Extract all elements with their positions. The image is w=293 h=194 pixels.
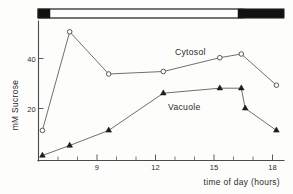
- axes: [38, 21, 284, 161]
- x-tick-label-9: 9: [95, 163, 99, 172]
- cytosol-point: [106, 72, 111, 77]
- photoperiod-bar: [38, 9, 284, 18]
- y-tick-label-40: 40: [27, 55, 36, 64]
- vacuole-point: [242, 105, 248, 110]
- vacuole-point: [161, 90, 167, 95]
- vacuole-point: [217, 85, 223, 90]
- x-tick-label-18: 18: [268, 163, 277, 172]
- vacuole-point: [106, 127, 112, 132]
- x-tick-label-15: 15: [210, 163, 219, 172]
- photoperiod-dark-segment-end: [238, 9, 284, 18]
- x-axis-ticks: [97, 155, 273, 161]
- cytosol-point: [274, 83, 279, 88]
- vacuole-point: [274, 127, 280, 132]
- y-tick-label-20: 20: [27, 105, 36, 114]
- sucrose-line-chart: 40 20 9 12 15 18 mM Suc: [0, 0, 293, 194]
- series-label-vacuole: Vacuole: [168, 102, 201, 112]
- x-axis-tick-labels: 9 12 15 18: [95, 163, 277, 172]
- vacuole-line: [42, 88, 276, 155]
- y-axis-ticks: [39, 59, 44, 109]
- cytosol-point: [218, 55, 223, 60]
- cytosol-point: [40, 128, 45, 133]
- series-cytosol: [40, 30, 279, 133]
- figure-canvas: 40 20 9 12 15 18 mM Suc: [0, 0, 293, 194]
- y-axis-title: mM Sucrose: [10, 80, 20, 131]
- cytosol-point: [67, 30, 72, 35]
- photoperiod-dark-segment-start: [38, 9, 50, 18]
- photoperiod-light-segment: [38, 9, 244, 18]
- cytosol-point: [239, 52, 244, 57]
- cytosol-point: [161, 69, 166, 74]
- vacuole-point: [239, 85, 245, 90]
- y-axis-tick-labels: 40 20: [27, 55, 36, 114]
- x-tick-label-12: 12: [151, 163, 160, 172]
- x-axis-title: time of day (hours): [204, 177, 280, 187]
- cytosol-line: [42, 32, 276, 131]
- series-label-cytosol: Cytosol: [175, 47, 206, 57]
- series-vacuole: [40, 85, 280, 157]
